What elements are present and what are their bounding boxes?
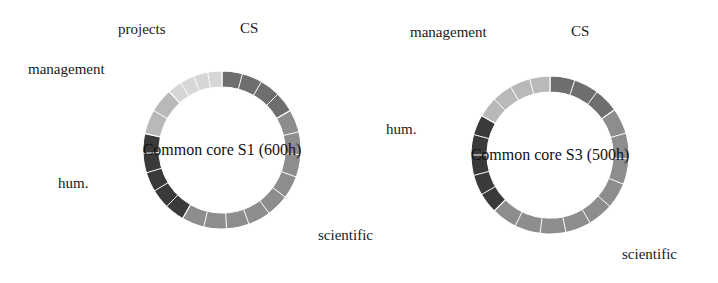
- donut-segment-scientific[interactable]: [494, 110, 629, 234]
- donut-segment-scientific[interactable]: [183, 111, 302, 230]
- donut-segment-management[interactable]: [482, 76, 550, 124]
- donut-segment-projects[interactable]: [169, 71, 222, 103]
- donut-center-label-common-core-s3: Common core S3 (500h): [471, 147, 630, 163]
- ring-label-hum-common-core-s3: hum.: [386, 122, 416, 137]
- ring-label-management-common-core-s1: management: [28, 62, 105, 77]
- donut-segment-hum[interactable]: [471, 116, 505, 211]
- donut-segment-cs[interactable]: [550, 76, 615, 119]
- ring-label-management-common-core-s3: management: [410, 25, 487, 40]
- ring-label-cs-common-core-s1: CS: [240, 21, 258, 36]
- donut-center-label-common-core-s1: Common core S1 (600h): [143, 142, 302, 158]
- ring-label-scientific-common-core-s3: scientific: [622, 247, 677, 262]
- ring-label-projects-common-core-s1: projects: [118, 22, 165, 37]
- ring-label-cs-common-core-s3: CS: [571, 24, 589, 39]
- ring-label-scientific-common-core-s1: scientific: [318, 228, 373, 243]
- ring-label-hum-common-core-s1: hum.: [58, 176, 88, 191]
- figure-canvas: Common core S1 (600h)projectsCSmanagemen…: [0, 0, 718, 283]
- donut-segment-cs[interactable]: [222, 71, 290, 119]
